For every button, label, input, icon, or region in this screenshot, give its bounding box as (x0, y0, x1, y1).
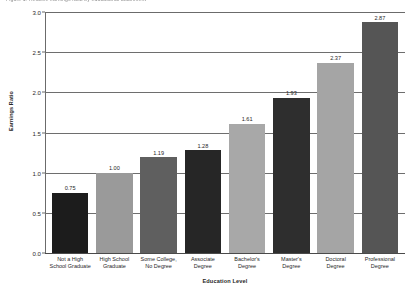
x-axis-tick-label-line: Degree (226, 263, 268, 270)
y-axis-tick-label: 2.0 (33, 89, 41, 96)
bar: 1.28 (185, 150, 221, 253)
x-axis-tick-label-line: Graduate (93, 263, 135, 270)
x-axis-tick-label-line: Degree (315, 263, 357, 270)
bar-value-label: 2.37 (330, 55, 341, 61)
x-axis-tick-labels: Not a HighSchool GraduateHigh SchoolGrad… (45, 256, 405, 270)
bar-value-label: 1.93 (286, 90, 297, 96)
x-axis-tick-label-line: Degree (182, 263, 224, 270)
x-axis-tick-label-line: Some College, (138, 256, 180, 263)
x-axis-tick-label: ProfessionalDegree (358, 256, 402, 270)
x-axis-tick-label-line: School Graduate (49, 263, 91, 270)
bar-slot: 2.87 (358, 12, 402, 253)
x-axis-tick-label-line: Professional (359, 256, 401, 263)
plot-area: 0.00.51.01.52.02.53.0 0.751.001.191.281.… (45, 12, 405, 253)
x-axis-tick-label: High SchoolGraduate (92, 256, 136, 270)
x-axis-tick-label-line: Associate (182, 256, 224, 263)
figure-caption: Figure 1. Relative earnings ratio by edu… (6, 0, 146, 2)
bar-slot: 0.75 (48, 12, 92, 253)
bar: 1.93 (273, 98, 309, 253)
y-axis-title: Earnings Ratio (8, 74, 14, 148)
gridline (45, 253, 405, 254)
x-axis-tick-label-line: No Degree (138, 263, 180, 270)
bar: 1.00 (96, 173, 132, 253)
bar: 2.37 (317, 63, 353, 253)
bar-value-label: 1.61 (242, 116, 253, 122)
x-axis-tick-label-line: Master's (270, 256, 312, 263)
bar-slot: 2.37 (314, 12, 358, 253)
x-axis-title: Education Level (45, 278, 405, 284)
x-axis-tick-label: AssociateDegree (181, 256, 225, 270)
y-axis-tick-label: 3.0 (33, 9, 41, 16)
bar-slot: 1.61 (225, 12, 269, 253)
bar-series: 0.751.001.191.281.611.932.372.87 (45, 12, 405, 253)
x-axis-tick-label-line: Degree (270, 263, 312, 270)
bar-value-label: 1.28 (197, 143, 208, 149)
bar-value-label: 1.00 (109, 165, 120, 171)
x-axis-tick-label: Not a HighSchool Graduate (48, 256, 92, 270)
bar: 1.61 (229, 124, 265, 253)
bar: 1.19 (140, 157, 176, 253)
bar: 0.75 (52, 193, 88, 253)
bar-value-label: 0.75 (65, 185, 76, 191)
x-axis-tick-label-line: Doctoral (315, 256, 357, 263)
y-axis-tick-label: 0.5 (33, 209, 41, 216)
bar-slot: 1.19 (137, 12, 181, 253)
x-axis-tick-label: Bachelor'sDegree (225, 256, 269, 270)
x-axis-tick-label: Some College,No Degree (137, 256, 181, 270)
x-axis-tick-label: Master'sDegree (269, 256, 313, 270)
y-axis-tick-label: 2.5 (33, 49, 41, 56)
y-axis-tick-label: 1.5 (33, 129, 41, 136)
bar-value-label: 1.19 (153, 150, 164, 156)
y-axis-tick-label: 0.0 (33, 250, 41, 257)
bar-value-label: 2.87 (374, 15, 385, 21)
y-axis-tick-label: 1.0 (33, 169, 41, 176)
bar-slot: 1.93 (269, 12, 313, 253)
x-axis-tick-label-line: Bachelor's (226, 256, 268, 263)
bar: 2.87 (362, 22, 398, 253)
chart-figure: Figure 1. Relative earnings ratio by edu… (0, 0, 412, 295)
bar-slot: 1.28 (181, 12, 225, 253)
x-axis-tick-label-line: High School (93, 256, 135, 263)
bar-slot: 1.00 (92, 12, 136, 253)
x-axis-tick-label: DoctoralDegree (314, 256, 358, 270)
x-axis-tick-label-line: Degree (359, 263, 401, 270)
x-axis-tick-label-line: Not a High (49, 256, 91, 263)
